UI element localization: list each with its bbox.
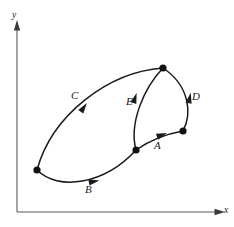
boundary-curves-group — [37, 68, 188, 182]
boundary-curve-c — [37, 68, 163, 170]
curve-label-d: D — [192, 91, 200, 102]
curve-label-b: B — [85, 184, 92, 195]
vertex-dots-group — [33, 64, 186, 173]
boundary-curve-b — [37, 150, 136, 182]
boundary-curve-d — [163, 68, 188, 131]
orientation-arrowheads-group — [78, 92, 194, 185]
diagram-svg — [0, 0, 234, 227]
curve-label-c: C — [71, 90, 78, 101]
y-axis-arrowhead — [14, 20, 20, 31]
vertex-bottom-mid — [132, 146, 139, 153]
curve-label-e: E — [126, 96, 133, 107]
vertex-left — [33, 166, 40, 173]
curve-label-a: A — [154, 140, 161, 151]
vertex-top — [159, 64, 166, 71]
axes-group — [14, 20, 225, 215]
vertex-right — [179, 127, 186, 134]
figure-canvas: x y A B C D E — [0, 0, 234, 227]
x-axis-label: x — [224, 206, 228, 216]
y-axis-label: y — [12, 11, 16, 21]
faint-artifact — [62, 1, 64, 9]
